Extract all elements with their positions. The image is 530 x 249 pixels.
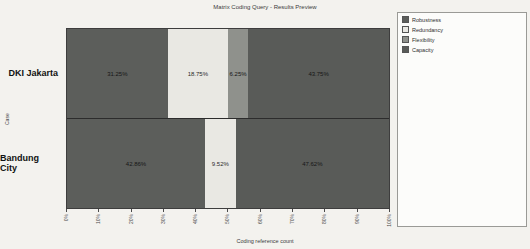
chart-preview-window: Matrix Coding Query - Results Preview DK… [0,0,530,249]
legend-item-redundancy: Redundancy [402,26,522,33]
legend-label: Capacity [412,47,433,53]
legend-items: RobustnessRedundancyFlexibilityCapacity [402,16,522,53]
tick-label: 40% [191,214,199,224]
x-tick: 0% [66,209,67,235]
tick-label: 30% [159,214,167,224]
x-tick: 60% [260,209,261,235]
tick-mark [357,209,358,212]
legend-box: RobustnessRedundancyFlexibilityCapacity [397,12,527,227]
legend-item-robustness: Robustness [402,16,522,23]
tick-mark [195,209,196,212]
legend-label: Flexibility [412,37,435,43]
x-axis-label: Coding reference count [0,238,530,244]
tick-label: 80% [320,214,328,224]
tick-mark [389,209,390,212]
x-tick: 70% [292,209,293,235]
bar-segment-robustness: 31.25% [67,29,168,118]
legend-swatch [402,46,409,53]
tick-label: 60% [256,214,264,224]
tick-mark [131,209,132,212]
legend-label: Redundancy [412,27,443,33]
x-tick: 80% [324,209,325,235]
tick-label: 50% [223,214,231,224]
legend-swatch [402,36,409,43]
tick-label: 90% [353,214,361,224]
bar-segment-flexibility: 6.25% [228,29,248,118]
legend-label: Robustness [412,17,441,23]
tick-mark [163,209,164,212]
plot-area: 31.25% 18.75% 6.25% 43.75% 42.86% 9.52% … [66,28,390,209]
tick-mark [260,209,261,212]
tick-label: 20% [127,214,135,224]
legend-item-capacity: Capacity [402,46,522,53]
bar-bandung-city: 42.86% 9.52% 47.62% [67,118,389,208]
tick-mark [324,209,325,212]
x-tick: 20% [131,209,132,235]
x-tick: 100% [389,209,390,235]
tick-label: 100% [385,214,393,227]
tick-mark [66,209,67,212]
x-tick: 40% [195,209,196,235]
tick-label: 70% [288,214,296,224]
tick-label: 10% [94,214,102,224]
bar-dki-jakarta: 31.25% 18.75% 6.25% 43.75% [67,29,389,118]
tick-label: 0% [62,214,70,221]
tick-mark [292,209,293,212]
y-axis-label: Case [2,105,12,133]
legend-item-flexibility: Flexibility [402,36,522,43]
legend-swatch [402,16,409,23]
x-tick: 10% [98,209,99,235]
bar-segment-robustness: 42.86% [67,119,205,208]
bar-segment-capacity: 47.62% [236,119,389,208]
bar-segment-capacity: 43.75% [248,29,389,118]
x-tick: 30% [163,209,164,235]
tick-mark [98,209,99,212]
x-tick: 50% [227,209,228,235]
bar-segment-redundancy: 9.52% [205,119,236,208]
chart-title: Matrix Coding Query - Results Preview [0,4,530,10]
bar-segment-redundancy: 18.75% [168,29,228,118]
x-tick: 90% [357,209,358,235]
x-axis-ticks: 0%10%20%30%40%50%60%70%80%90%100% [66,209,390,235]
tick-mark [227,209,228,212]
legend-swatch [402,26,409,33]
